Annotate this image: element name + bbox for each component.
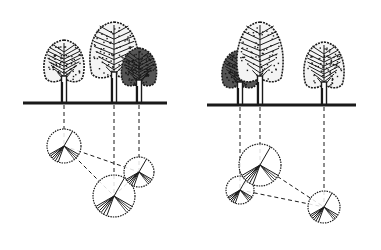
leaf <box>253 35 254 36</box>
leaf <box>147 65 148 66</box>
leaf <box>276 69 277 70</box>
leaf <box>259 59 260 60</box>
leaf <box>314 82 315 83</box>
leaf <box>70 69 71 70</box>
leaf <box>48 58 49 59</box>
leaf <box>138 58 139 59</box>
leaf <box>135 64 136 65</box>
leaf <box>262 31 263 32</box>
leaf <box>232 56 233 57</box>
leaf <box>127 60 128 61</box>
leaf <box>331 61 332 62</box>
leaf <box>136 67 137 68</box>
leaf <box>260 64 261 65</box>
leaf <box>141 68 142 69</box>
leaf <box>102 62 103 63</box>
plan-circle-L3 <box>124 157 154 187</box>
leaf <box>142 58 143 59</box>
leaf <box>253 32 254 33</box>
leaf <box>324 48 325 49</box>
leaf <box>336 65 337 66</box>
leaf <box>146 81 147 82</box>
leaf <box>56 62 57 63</box>
leaf <box>331 76 332 77</box>
leaf <box>132 73 133 74</box>
leaf <box>80 55 81 56</box>
leaf <box>332 78 333 79</box>
leaf <box>120 46 121 47</box>
leaf <box>264 68 265 69</box>
leaf <box>118 30 119 31</box>
leaf <box>53 64 54 65</box>
leaf <box>108 61 109 62</box>
leaf <box>128 63 129 64</box>
leaf <box>128 72 129 73</box>
leaf <box>322 75 323 76</box>
leaf <box>64 55 65 56</box>
leaf <box>136 78 137 79</box>
leaf <box>234 67 235 68</box>
leaf <box>339 56 340 57</box>
leaf <box>112 66 113 67</box>
plan-circle-R2 <box>239 144 281 186</box>
leaf <box>149 68 150 69</box>
leaf <box>254 46 255 47</box>
leaf <box>341 70 342 71</box>
leaf <box>59 66 60 67</box>
tree-R2 <box>237 22 283 105</box>
leaf <box>266 31 267 32</box>
leaf <box>333 57 334 58</box>
leaf <box>323 59 324 60</box>
leaf <box>60 62 61 63</box>
panel-right <box>207 22 356 223</box>
leaf <box>330 72 331 73</box>
leaf <box>148 71 149 72</box>
leaf <box>233 55 234 56</box>
ground-line <box>23 102 167 105</box>
leaf <box>56 64 57 65</box>
tree-R3 <box>304 42 344 105</box>
leaf <box>227 64 228 65</box>
leaf <box>312 63 313 64</box>
leaf <box>247 63 248 64</box>
leaf <box>255 42 256 43</box>
leaf <box>61 61 62 62</box>
leaf <box>96 38 97 39</box>
leaf <box>106 65 107 66</box>
leaf <box>234 64 235 65</box>
leaf <box>259 49 260 50</box>
leaf <box>271 32 272 33</box>
leaf <box>71 63 72 64</box>
leaf <box>234 79 235 80</box>
leaf <box>146 61 147 62</box>
leaf <box>335 72 336 73</box>
leaf <box>128 79 129 80</box>
leaf <box>326 68 327 69</box>
leaf <box>75 47 76 48</box>
leaf <box>66 74 67 75</box>
leaf <box>225 73 226 74</box>
leaf <box>138 68 139 69</box>
leaf <box>326 63 327 64</box>
leaf <box>58 47 59 48</box>
leaf <box>334 67 335 68</box>
leaf <box>320 47 321 48</box>
leaf <box>101 48 102 49</box>
leaf <box>269 59 270 60</box>
leaf <box>147 55 148 56</box>
leaf <box>64 46 65 47</box>
leaf <box>246 84 247 85</box>
leaf <box>234 72 235 73</box>
panel-left <box>23 22 167 217</box>
leaf <box>79 63 80 64</box>
leaf <box>130 48 131 49</box>
leaf <box>147 53 148 54</box>
leaf <box>337 76 338 77</box>
leaf <box>126 67 127 68</box>
leaf <box>307 68 308 69</box>
leaf <box>136 65 137 66</box>
leaf <box>140 75 141 76</box>
leaf <box>139 63 140 64</box>
leaf <box>274 65 275 66</box>
leaf <box>119 27 120 28</box>
